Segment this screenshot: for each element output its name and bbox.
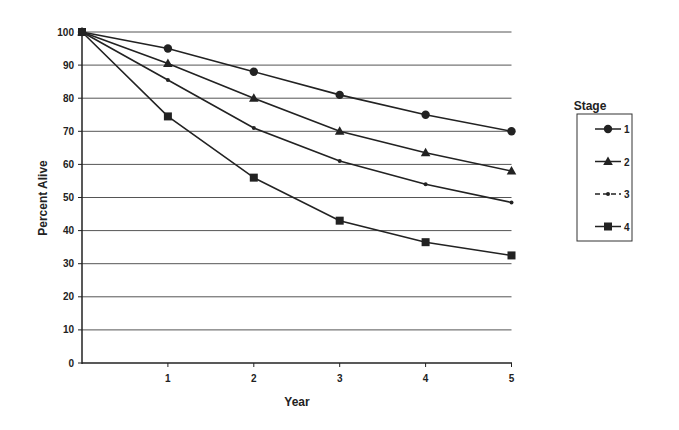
circle-marker-icon [507,127,515,135]
series-line [82,32,512,202]
series-stage-3 [80,30,514,204]
y-tick-label: 40 [63,225,75,236]
dot-marker-icon [166,78,170,82]
x-tick-label: 4 [423,373,429,384]
x-axis-title: Year [284,395,310,409]
square-marker-icon [78,28,86,36]
gridlines [82,32,512,330]
dot-marker-icon [510,200,514,204]
circle-marker-icon [250,68,258,76]
x-tick-label: 1 [165,373,171,384]
legend: Stage 1234 [574,99,632,241]
y-tick-label: 50 [63,192,75,203]
circle-marker-icon [421,111,429,119]
x-axis-ticks: 12345 [165,363,515,384]
legend-label: 1 [624,124,630,135]
y-tick-label: 10 [63,324,75,335]
data-series [77,27,516,259]
square-marker-icon [336,217,344,225]
y-tick-label: 90 [63,60,75,71]
y-tick-label: 100 [57,27,74,38]
y-tick-label: 70 [63,126,75,137]
legend-label: 3 [624,189,630,200]
circle-marker-icon [164,44,172,52]
dot-marker-icon [424,182,428,186]
y-tick-label: 30 [63,258,75,269]
y-axis-title: Percent Alive [36,160,50,236]
dot-marker-icon [252,126,256,130]
square-marker-icon [164,112,172,120]
circle-marker-icon [336,91,344,99]
y-tick-label: 20 [63,291,75,302]
square-marker-icon [508,251,516,259]
y-tick-label: 0 [68,358,74,369]
x-tick-label: 3 [337,373,343,384]
legend-title: Stage [574,99,607,113]
series-line [82,32,512,171]
square-marker-icon [422,238,430,246]
x-tick-label: 2 [251,373,257,384]
dot-marker-icon [338,159,342,163]
square-marker-icon [250,174,258,182]
y-axis-ticks: 0102030405060708090100 [57,27,82,369]
series-line [82,32,512,131]
survival-line-chart: 0102030405060708090100 12345 Percent Ali… [0,0,679,430]
circle-marker-icon [604,125,612,133]
x-tick-label: 5 [509,373,515,384]
y-tick-label: 60 [63,159,75,170]
series-stage-1 [78,28,516,136]
legend-label: 2 [624,157,630,168]
legend-label: 4 [624,222,630,233]
series-stage-2 [77,27,516,175]
dot-marker-icon [606,192,610,196]
square-marker-icon [604,223,612,231]
y-tick-label: 80 [63,93,75,104]
